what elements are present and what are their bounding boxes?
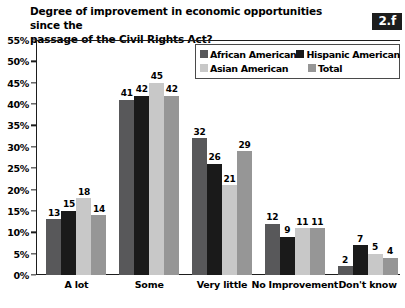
bar-value-label: 7 xyxy=(357,234,363,246)
bar-value-label: 5 xyxy=(372,242,378,254)
bar: 12 xyxy=(265,224,280,275)
bar-value-label: 42 xyxy=(136,84,148,96)
bar-group: 13151814 xyxy=(46,40,106,275)
bar-value-label: 15 xyxy=(63,199,75,211)
legend-swatch-icon-total xyxy=(308,64,316,72)
bar: 32 xyxy=(192,138,207,275)
y-axis-tick-label: 25% xyxy=(0,163,29,174)
x-axis-category-label: A lot xyxy=(64,279,88,290)
legend-swatch-icon-asian-american xyxy=(200,64,208,72)
legend-label-asian-american: Asian American xyxy=(210,63,288,74)
bar-group: 41424542 xyxy=(119,40,179,275)
legend-item-hispanic-american: Hispanic American xyxy=(296,49,400,60)
bar: 13 xyxy=(46,219,61,275)
legend-item-african-american: African American xyxy=(200,49,296,60)
bar: 7 xyxy=(353,245,368,275)
bar: 29 xyxy=(237,151,252,275)
legend-label-total: Total xyxy=(318,63,342,74)
y-axis-tick-label: 20% xyxy=(0,184,29,195)
legend-item-asian-american: Asian American xyxy=(200,63,308,74)
x-axis-category-label: Some xyxy=(135,279,164,290)
legend-swatch-icon-african-american xyxy=(200,50,208,58)
bar-value-label: 18 xyxy=(78,187,90,199)
bar-value-label: 9 xyxy=(284,225,290,237)
bar-value-label: 21 xyxy=(224,174,236,186)
bar: 42 xyxy=(164,96,179,275)
bar-value-label: 13 xyxy=(48,208,60,220)
legend-item-total: Total xyxy=(308,63,342,74)
y-axis-tick-label: 10% xyxy=(0,227,29,238)
bar: 42 xyxy=(134,96,149,275)
bar-value-label: 32 xyxy=(194,127,206,139)
y-axis-tick-label: 5% xyxy=(0,248,29,259)
title-line-1: Degree of improvement in economic opport… xyxy=(30,5,322,31)
bar: 4 xyxy=(383,258,398,275)
y-axis-tick-label: 55% xyxy=(0,35,29,46)
legend: African American Hispanic American Asian… xyxy=(195,44,400,79)
bar: 5 xyxy=(368,254,383,275)
y-axis: 55%50%45%40%35%30%25%20%15%10%5%0% xyxy=(0,0,36,308)
bar-value-label: 29 xyxy=(239,140,251,152)
bar-value-label: 14 xyxy=(93,204,105,216)
legend-label-african-american: African American xyxy=(210,49,296,60)
bar: 26 xyxy=(207,164,222,275)
x-axis-category-label: Don't know xyxy=(338,279,396,290)
legend-row-1: African American Hispanic American xyxy=(200,47,395,61)
bar: 11 xyxy=(295,228,310,275)
y-axis-tick-label: 40% xyxy=(0,99,29,110)
y-axis-tick-label: 50% xyxy=(0,56,29,67)
x-axis-category-label: No Improvement xyxy=(251,279,338,290)
bar: 15 xyxy=(61,211,76,275)
bar: 18 xyxy=(76,198,91,275)
bar: 21 xyxy=(222,185,237,275)
bar-value-label: 2 xyxy=(342,255,348,267)
legend-swatch-icon-hispanic-american xyxy=(296,50,304,58)
legend-row-2: Asian American Total xyxy=(200,61,395,75)
y-axis-tick-label: 0% xyxy=(0,270,29,281)
y-axis-tick-label: 45% xyxy=(0,77,29,88)
bar: 14 xyxy=(91,215,106,275)
legend-label-hispanic-american: Hispanic American xyxy=(306,49,400,60)
bar: 11 xyxy=(310,228,325,275)
bar-value-label: 42 xyxy=(166,84,178,96)
y-axis-tick-label: 15% xyxy=(0,205,29,216)
question-number-badge: 2.f xyxy=(372,13,402,30)
bar-value-label: 26 xyxy=(209,152,221,164)
bar: 2 xyxy=(338,266,353,275)
bar-value-label: 45 xyxy=(151,71,163,83)
bar-value-label: 41 xyxy=(121,88,133,100)
bar-value-label: 11 xyxy=(311,217,323,229)
bar: 9 xyxy=(280,237,295,275)
bar-value-label: 4 xyxy=(387,246,393,258)
y-axis-tick-label: 35% xyxy=(0,120,29,131)
y-axis-tick-label: 30% xyxy=(0,141,29,152)
x-axis-labels: A lotSomeVery littleNo ImprovementDon't … xyxy=(36,279,400,299)
bar-value-label: 11 xyxy=(296,217,308,229)
x-axis-category-label: Very little xyxy=(197,279,248,290)
bar: 45 xyxy=(149,83,164,275)
bar-value-label: 12 xyxy=(266,212,278,224)
bar: 41 xyxy=(119,100,134,275)
